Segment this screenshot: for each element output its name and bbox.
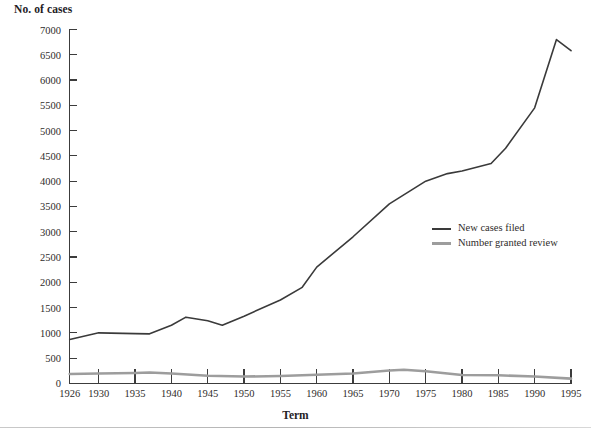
page-bottom-rule xyxy=(0,427,591,428)
legend-item: New cases filed xyxy=(432,221,558,236)
chart-plot-lines xyxy=(0,0,591,434)
x-axis-title: Term xyxy=(0,409,591,421)
legend-line-swatch-icon xyxy=(432,242,451,245)
legend-item-label: Number granted review xyxy=(458,238,558,249)
series-line-number-granted-review xyxy=(70,370,571,379)
legend-item: Number granted review xyxy=(432,236,558,251)
legend-item-label: New cases filed xyxy=(458,223,524,234)
legend-line-swatch-icon xyxy=(432,228,451,230)
chart-legend: New cases filedNumber granted review xyxy=(432,221,558,251)
chart-figure: No. of cases 700065006000550050004500400… xyxy=(0,0,591,434)
series-line-new-cases-filed xyxy=(70,40,571,340)
